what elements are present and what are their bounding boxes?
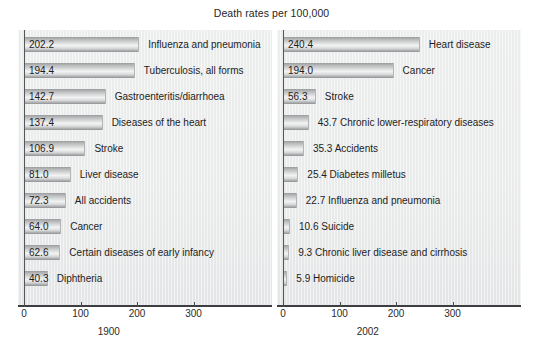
bar-row: 35.3 Accidents — [284, 141, 520, 156]
bar — [284, 141, 304, 156]
bar-row: 202.2Influenza and pneumonia — [25, 37, 271, 52]
bar-row: 142.7Gastroenteritis/diarrhoea — [25, 89, 271, 104]
bar-row: 10.6 Suicide — [284, 219, 520, 234]
x-axis-tick-label: 300 — [444, 308, 461, 319]
bar-row: 9.3 Chronic liver disease and cirrhosis — [284, 245, 520, 260]
bar — [284, 219, 290, 234]
x-axis-tick-label: 100 — [72, 308, 89, 319]
bar-row: 40.3Diphtheria — [25, 271, 271, 286]
x-axis-line — [277, 305, 521, 307]
bar-value-label: 194.4 — [29, 63, 54, 78]
bar-category-label: Certain diseases of early infancy — [69, 245, 214, 260]
bar-row: 22.7 Influenza and pneumonia — [284, 193, 520, 208]
bar-value-label: 194.0 — [288, 63, 313, 78]
x-axis-tick — [283, 302, 284, 307]
x-axis-tick — [81, 302, 82, 307]
x-axis-tick — [453, 302, 454, 307]
bar-value-and-category-label: 43.7 Chronic lower-respiratory diseases — [318, 115, 494, 130]
y-axis-line — [283, 30, 284, 305]
bar-row: 137.4Diseases of the heart — [25, 115, 271, 130]
bar-category-label: All accidents — [75, 193, 131, 208]
x-axis-tick-label: 300 — [185, 308, 202, 319]
bar — [284, 271, 287, 286]
bar-row: 194.4Tuberculosis, all forms — [25, 63, 271, 78]
bar — [284, 115, 309, 130]
x-axis-tick-label: 200 — [129, 308, 146, 319]
page-title: Death rates per 100,000 — [0, 7, 543, 19]
bar — [284, 167, 298, 182]
bar-row: 240.4Heart disease — [284, 37, 520, 52]
bar-row: 81.0Liver disease — [25, 167, 271, 182]
x-axis-tick — [137, 302, 138, 307]
bar-row: 5.9 Homicide — [284, 271, 520, 286]
y-axis-line — [24, 30, 25, 305]
bar-row: 62.6Certain diseases of early infancy — [25, 245, 271, 260]
bar-category-label: Influenza and pneumonia — [148, 37, 260, 52]
bar-value-and-category-label: 25.4 Diabetes milletus — [307, 167, 405, 182]
bar-row: 72.3All accidents — [25, 193, 271, 208]
bar-value-label: 142.7 — [29, 89, 54, 104]
bar-value-label: 62.6 — [29, 245, 48, 260]
bar-category-label: Stroke — [94, 141, 123, 156]
bar-category-label: Diphtheria — [57, 271, 103, 286]
bar-value-label: 56.3 — [288, 89, 307, 104]
bar-value-label: 240.4 — [288, 37, 313, 52]
panel-1900: 202.2Influenza and pneumonia194.4Tubercu… — [18, 30, 272, 305]
bar-row: 194.0Cancer — [284, 63, 520, 78]
bar-row: 56.3Stroke — [284, 89, 520, 104]
bar-category-label: Stroke — [325, 89, 354, 104]
bar-value-label: 202.2 — [29, 37, 54, 52]
bar-value-and-category-label: 10.6 Suicide — [299, 219, 354, 234]
bar-value-label: 137.4 — [29, 115, 54, 130]
x-axis-tick-label: 200 — [388, 308, 405, 319]
bar-row: 25.4 Diabetes milletus — [284, 167, 520, 182]
bar-category-label: Diseases of the heart — [112, 115, 207, 130]
bar-value-and-category-label: 22.7 Influenza and pneumonia — [306, 193, 441, 208]
bar-value-label: 64.0 — [29, 219, 48, 234]
bar-category-label: Cancer — [70, 219, 102, 234]
bar — [284, 193, 297, 208]
bar-row: 64.0Cancer — [25, 219, 271, 234]
x-axis-tick — [396, 302, 397, 307]
x-axis-tick-label: 100 — [331, 308, 348, 319]
panel-caption-1900: 1900 — [98, 326, 120, 337]
x-axis-tick — [24, 302, 25, 307]
death-rates-figure: Death rates per 100,000 202.2Influenza a… — [0, 0, 543, 360]
bar-category-label: Liver disease — [80, 167, 139, 182]
bar-category-label: Gastroenteritis/diarrhoea — [115, 89, 225, 104]
x-axis-tick-label: 0 — [280, 308, 286, 319]
bar-row: 43.7 Chronic lower-respiratory diseases — [284, 115, 520, 130]
bar-value-and-category-label: 35.3 Accidents — [313, 141, 378, 156]
bar-value-label: 106.9 — [29, 141, 54, 156]
bar-row: 106.9Stroke — [25, 141, 271, 156]
panel-caption-2002: 2002 — [357, 326, 379, 337]
panel-2002: 240.4Heart disease194.0Cancer56.3Stroke4… — [277, 30, 521, 305]
bar — [284, 245, 289, 260]
bar-category-label: Heart disease — [429, 37, 491, 52]
bar-value-and-category-label: 5.9 Homicide — [296, 271, 354, 286]
bar-value-and-category-label: 9.3 Chronic liver disease and cirrhosis — [298, 245, 467, 260]
x-axis-tick — [340, 302, 341, 307]
bar-value-label: 40.3 — [29, 271, 48, 286]
bar-category-label: Cancer — [403, 63, 435, 78]
x-axis-tick — [194, 302, 195, 307]
x-axis-tick-label: 0 — [21, 308, 27, 319]
bar-value-label: 81.0 — [29, 167, 48, 182]
x-axis-line — [18, 305, 272, 307]
bar-value-label: 72.3 — [29, 193, 48, 208]
bar-category-label: Tuberculosis, all forms — [144, 63, 244, 78]
